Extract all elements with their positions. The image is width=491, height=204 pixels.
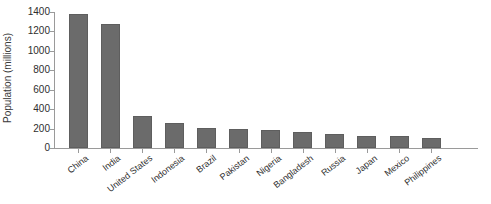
x-axis-tick-mark xyxy=(399,149,400,153)
x-axis-line xyxy=(54,148,478,149)
x-axis-tick-mark xyxy=(239,149,240,153)
bar xyxy=(293,132,312,148)
y-axis-tick-mark xyxy=(50,148,54,149)
x-axis-tick-mark xyxy=(174,149,175,153)
bar-chart: Population (millions) 020040060080010001… xyxy=(0,0,491,204)
x-axis-tick-mark xyxy=(110,149,111,153)
y-axis-tick-label: 200 xyxy=(16,124,50,134)
x-axis-tick-mark xyxy=(78,149,79,153)
y-axis-tick-mark xyxy=(50,51,54,52)
bar xyxy=(197,128,216,148)
x-axis-tick-label: Brazil xyxy=(118,153,219,204)
x-axis-tick-mark xyxy=(303,149,304,153)
y-axis-tick-mark xyxy=(50,12,54,13)
y-axis-tick-mark xyxy=(50,109,54,110)
bar xyxy=(165,123,184,148)
bar xyxy=(422,138,441,148)
x-axis-tick-mark xyxy=(271,149,272,153)
x-axis-tick-mark xyxy=(367,149,368,153)
y-axis-tick-mark xyxy=(50,31,54,32)
x-axis-tick-label: United States xyxy=(54,153,155,204)
x-axis-tick-mark xyxy=(431,149,432,153)
x-axis-tick-label: India xyxy=(22,153,123,204)
x-axis-tick-label: Mexico xyxy=(310,153,411,204)
y-axis-tick-label: 1400 xyxy=(16,7,50,17)
x-axis-tick-label: China xyxy=(0,153,90,204)
bar xyxy=(229,129,248,148)
y-axis-title: Population (millions) xyxy=(1,4,15,152)
x-axis-tick-label: Japan xyxy=(278,153,379,204)
y-axis-tick-mark xyxy=(50,90,54,91)
y-axis-tick-label: 0 xyxy=(16,143,50,153)
y-axis-tick-label: 400 xyxy=(16,104,50,114)
x-axis-tick-mark xyxy=(142,149,143,153)
bar xyxy=(357,136,376,148)
plot-area xyxy=(55,12,478,148)
y-axis-tick-mark xyxy=(50,129,54,130)
y-axis-tick-mark xyxy=(50,70,54,71)
bar xyxy=(133,116,152,148)
x-axis-tick-label: Indonesia xyxy=(86,153,187,204)
y-axis-tick-labels: 0200400600800100012001400 xyxy=(16,0,50,160)
x-axis-tick-mark xyxy=(206,149,207,153)
x-axis-tick-label: Pakistan xyxy=(150,153,251,204)
bar xyxy=(69,14,88,148)
x-axis-tick-label: Nigeria xyxy=(182,153,283,204)
x-axis-tick-mark xyxy=(335,149,336,153)
bar xyxy=(325,134,344,148)
y-axis-tick-label: 1200 xyxy=(16,26,50,36)
y-axis-tick-label: 800 xyxy=(16,65,50,75)
bar xyxy=(101,24,120,148)
x-axis-tick-label: Philippines xyxy=(343,153,444,204)
x-axis-tick-label: Russia xyxy=(246,153,347,204)
y-axis-tick-label: 600 xyxy=(16,85,50,95)
bar xyxy=(261,130,280,148)
bar xyxy=(390,136,409,148)
y-axis-tick-label: 1000 xyxy=(16,46,50,56)
x-axis-tick-label: Bangladesh xyxy=(214,153,315,204)
